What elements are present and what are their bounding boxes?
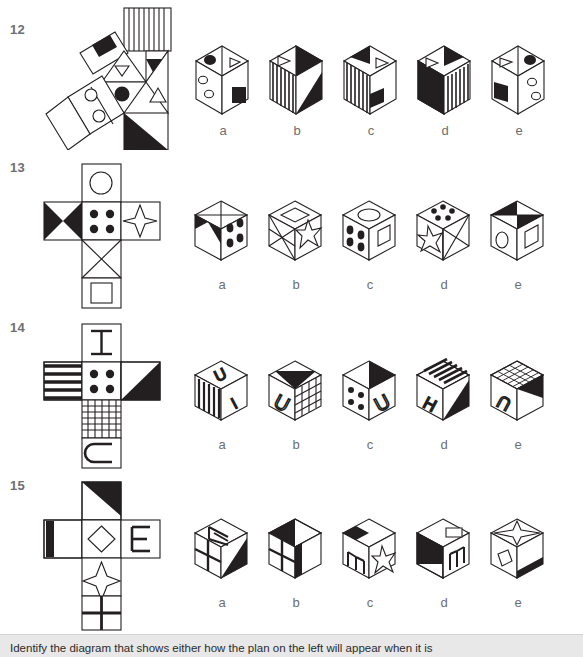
option-15-e[interactable] [488,516,548,588]
option-label-15-d: d [424,595,464,610]
option-label-15-b: b [276,595,316,610]
option-label-14-a: a [202,437,242,452]
option-15-b[interactable] [266,516,326,588]
option-12-a[interactable] [192,42,254,122]
option-label-15-c: c [350,595,390,610]
option-14-d[interactable]: H [414,358,474,430]
option-label-12-b: b [277,123,317,138]
option-label-14-d: d [424,437,464,452]
net-diagram-15 [42,480,170,632]
instruction-footer: Identify the diagram that shows either h… [0,634,583,657]
option-label-12-a: a [203,123,243,138]
question-number-15: 15 [10,478,25,493]
question-number-14: 14 [10,320,25,335]
net-diagram-13 [42,162,170,310]
option-14-e[interactable]: U [488,358,548,430]
option-13-c[interactable] [340,198,400,270]
option-12-b[interactable] [266,42,328,122]
option-label-15-a: a [202,595,242,610]
option-14-b[interactable]: U [266,358,326,430]
option-13-b[interactable] [266,198,326,270]
option-label-13-b: b [276,277,316,292]
option-label-15-e: e [498,595,538,610]
option-12-c[interactable] [340,42,402,122]
option-label-14-e: e [498,437,538,452]
net-diagram-12 [36,4,186,150]
option-label-12-c: c [351,123,391,138]
option-label-13-e: e [498,277,538,292]
option-14-a[interactable]: U I [192,358,252,430]
option-label-13-d: d [424,277,464,292]
option-12-d[interactable] [414,42,476,122]
option-label-12-d: d [425,123,465,138]
option-label-13-c: c [350,277,390,292]
option-12-e[interactable] [488,42,550,122]
option-13-d[interactable] [414,198,474,270]
option-14-c[interactable]: U [340,358,400,430]
net-diagram-14 [42,322,170,470]
option-15-a[interactable] [192,516,252,588]
option-label-14-c: c [350,437,390,452]
option-15-d[interactable] [414,516,474,588]
option-13-a[interactable] [192,198,252,270]
question-number-12: 12 [10,22,25,37]
option-15-c[interactable] [340,516,400,588]
option-13-e[interactable] [488,198,548,270]
question-number-13: 13 [10,160,25,175]
option-label-12-e: e [499,123,539,138]
option-label-13-a: a [202,277,242,292]
option-label-14-b: b [276,437,316,452]
instruction-text: Identify the diagram that shows either h… [0,635,583,656]
